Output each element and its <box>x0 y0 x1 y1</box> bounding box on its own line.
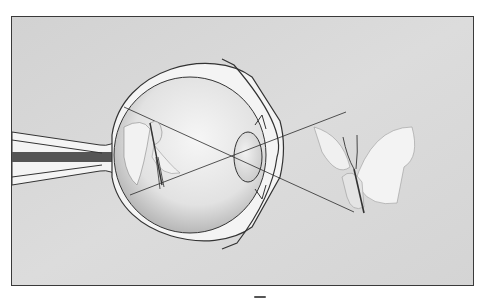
page-mark <box>254 296 266 298</box>
eye-diagram-frame <box>11 16 474 286</box>
lens <box>234 132 262 182</box>
eye-diagram <box>12 17 474 286</box>
